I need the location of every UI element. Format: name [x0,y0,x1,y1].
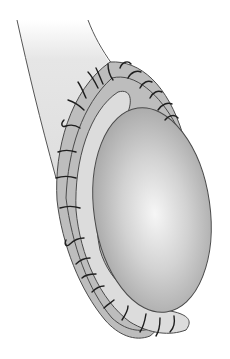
surgical-figure [0,0,230,359]
illustration-canvas [0,0,230,359]
